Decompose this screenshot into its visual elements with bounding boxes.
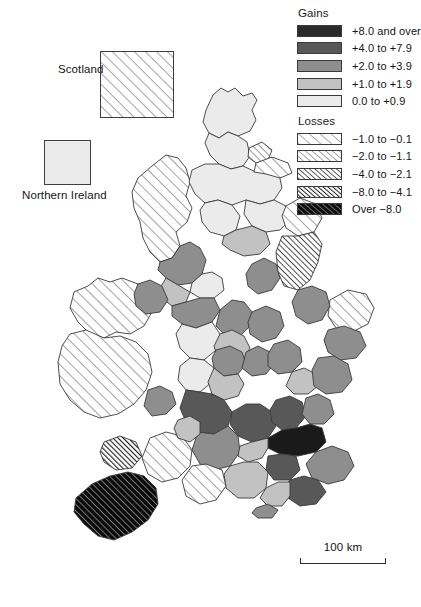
region: [302, 394, 334, 424]
region: [324, 326, 366, 360]
legend-label-loss-3: −4.0 to −2.1: [352, 168, 412, 180]
region: [58, 330, 152, 418]
legend: Gains +8.0 and over +4.0 to +7.9 +2.0 to…: [297, 6, 421, 218]
legend-item-gain-5: 0.0 to +0.9: [297, 92, 421, 110]
legend-swatch-gain-5: [297, 95, 342, 107]
legend-item-loss-4: −8.0 to −4.1: [297, 183, 421, 201]
scalebar-line: [300, 563, 386, 564]
region: [100, 436, 142, 470]
legend-item-loss-5: Over −8.0: [297, 200, 421, 218]
legend-label-loss-4: −8.0 to −4.1: [352, 186, 412, 198]
region: [178, 358, 214, 392]
legend-swatch-loss-5: [297, 203, 342, 215]
legend-swatch-loss-2: [297, 150, 342, 162]
scalebar-label: 100 km: [300, 540, 386, 554]
legend-item-loss-3: −4.0 to −2.1: [297, 165, 421, 183]
legend-label-gain-2: +4.0 to +7.9: [352, 42, 412, 54]
region: [182, 464, 226, 504]
legend-label-gain-5: 0.0 to +0.9: [352, 95, 405, 107]
legend-swatch-gain-2: [297, 42, 342, 54]
scalebar-tick-right: [385, 558, 386, 564]
scalebar: [300, 556, 386, 564]
legend-label-loss-2: −2.0 to −1.1: [352, 150, 412, 162]
northern-ireland-inset-box: [44, 140, 91, 185]
scalebar-tick-left: [300, 558, 301, 564]
legend-swatch-loss-1: [297, 133, 342, 145]
legend-item-loss-1: −1.0 to −0.1: [297, 130, 421, 148]
legend-item-gain-3: +2.0 to +3.9: [297, 57, 421, 75]
scotland-inset-label: Scotland: [58, 63, 104, 76]
region: [248, 306, 284, 342]
legend-gains-heading: Gains: [298, 6, 421, 20]
scotland-inset-box: [100, 51, 174, 118]
figure-root: Scotland Northern Ireland Gains +8.0 and…: [0, 0, 421, 607]
region: [246, 258, 280, 294]
region: [276, 232, 322, 290]
legend-swatch-loss-3: [297, 168, 342, 180]
legend-label-loss-1: −1.0 to −0.1: [352, 133, 412, 145]
legend-swatch-loss-4: [297, 186, 342, 198]
region: [205, 132, 250, 169]
region: [312, 356, 352, 394]
legend-swatch-gain-3: [297, 60, 342, 72]
region: [203, 88, 257, 138]
region: [270, 396, 306, 430]
region: [224, 462, 268, 498]
region: [266, 454, 300, 480]
region: [268, 340, 302, 374]
legend-item-loss-2: −2.0 to −1.1: [297, 148, 421, 166]
legend-swatch-gain-4: [297, 78, 342, 90]
legend-losses-heading: Losses: [298, 114, 421, 128]
region: [238, 438, 268, 462]
legend-label-loss-5: Over −8.0: [352, 203, 402, 215]
region: [144, 386, 176, 416]
region: [292, 286, 330, 324]
region: [74, 472, 158, 540]
legend-item-gain-4: +1.0 to +1.9: [297, 75, 421, 93]
legend-item-gain-2: +4.0 to +7.9: [297, 40, 421, 58]
legend-swatch-gain-1: [297, 25, 342, 37]
region: [328, 290, 374, 332]
legend-label-gain-4: +1.0 to +1.9: [352, 78, 412, 90]
legend-item-gain-1: +8.0 and over: [297, 22, 421, 40]
northern-ireland-inset-label: Northern Ireland: [22, 189, 107, 202]
legend-label-gain-3: +2.0 to +3.9: [352, 60, 412, 72]
legend-label-gain-1: +8.0 and over: [352, 25, 421, 37]
